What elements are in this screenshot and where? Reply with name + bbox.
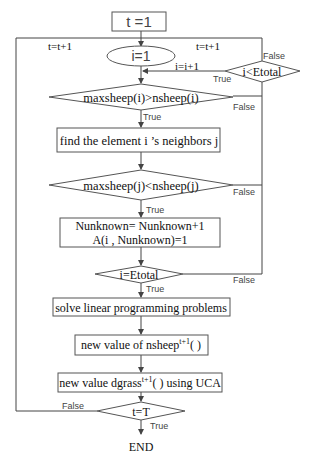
flowchart: t =1 i=1 i<Etotal maxsheep(i)>nsheep(i) … [0, 0, 313, 456]
cond-i-eq-true: True [146, 284, 164, 294]
cond-max-j-false: False [233, 187, 255, 197]
cond-i-lt-false: False [263, 51, 285, 61]
cond-max-j-label: maxsheep(j)<nsheep(j) [83, 179, 198, 193]
t-increment-right: t=t+1 [196, 40, 220, 52]
cond-max-j-true: True [146, 205, 164, 215]
cond-max-i-true: True [143, 112, 161, 122]
cond-maxsheep-i: maxsheep(i)>nsheep(i) [49, 84, 233, 110]
cond-i-eq-false: False [233, 275, 255, 285]
cond-t-eq-T: t=T [97, 402, 185, 420]
cond-t-true: True [150, 421, 168, 431]
end-label: END [129, 440, 154, 454]
update-line2: A(i , Nunknown)=1 [92, 233, 187, 247]
start-node: t =1 [112, 12, 166, 31]
cond-i-eq-etotal: i=Etotal [95, 266, 183, 283]
t-increment-left: t=t+1 [48, 40, 72, 52]
dgrass-node: new value dgrasst+1( ) using UCA [58, 373, 222, 392]
update-line1: Nunknown= Nunknown+1 [75, 219, 204, 233]
cond-maxsheep-j: maxsheep(j)<nsheep(j) [49, 170, 233, 200]
update-node: Nunknown= Nunknown+1 A(i , Nunknown)=1 [60, 218, 220, 247]
start-label: t =1 [126, 13, 151, 30]
init-i-label: i=1 [131, 48, 150, 64]
nsheep-node: new value of nsheept+1( ) [75, 335, 208, 355]
cond-t-label: t=T [132, 405, 150, 419]
cond-max-i-label: maxsheep(i)>nsheep(i) [83, 91, 198, 105]
cond-i-lt-label: i<Etotal [243, 65, 282, 79]
i-increment: i=i+1 [175, 60, 199, 72]
cond-max-i-false: False [233, 102, 255, 112]
cond-t-false: False [62, 401, 84, 411]
find-neighbors-node: find the element i ’s neighbors j [57, 128, 220, 152]
init-i-node: i=1 [107, 46, 175, 66]
solve-label: solve linear programming problems [55, 301, 227, 315]
solve-node: solve linear programming problems [53, 298, 230, 316]
find-label: find the element i ’s neighbors j [60, 134, 218, 148]
dgrass-label: new value dgrasst+1( ) using UCA [59, 375, 221, 390]
cond-i-lt-etotal: i<Etotal [225, 61, 300, 82]
cond-i-lt-true: True [213, 74, 231, 84]
cond-i-eq-label: i=Etotal [120, 268, 159, 282]
